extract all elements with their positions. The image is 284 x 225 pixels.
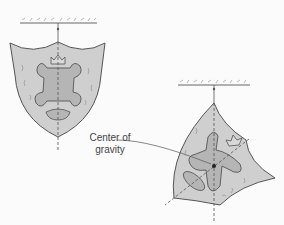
label-line-1: Center of — [75, 132, 145, 144]
ceiling-right — [178, 80, 250, 85]
label-line-2: gravity — [75, 144, 145, 156]
center-of-gravity-dot — [212, 164, 216, 168]
diagram-svg — [0, 0, 284, 225]
pivot-right — [213, 88, 215, 90]
left-figure — [10, 18, 105, 150]
ceiling-left — [20, 18, 97, 23]
center-of-gravity-label: Center of gravity — [75, 132, 145, 156]
pivot-left — [57, 28, 59, 30]
diagram-canvas: Center of gravity — [0, 0, 284, 225]
